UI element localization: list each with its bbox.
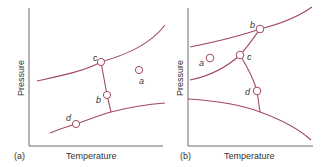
phase-diagram-figure: Pressure Temperature (a) c b a d Pressur… bbox=[0, 0, 331, 167]
panel-b-point-b-label: b bbox=[250, 20, 255, 30]
panel-a-label: (a) bbox=[14, 151, 25, 161]
panel-a-x-axis-label: Temperature bbox=[66, 151, 117, 161]
panel-a-y-axis-label: Pressure bbox=[16, 60, 26, 96]
panel-a-connecting-boundary bbox=[101, 62, 111, 112]
panel-a-point-a-label: a bbox=[139, 76, 144, 86]
panel-b-point-a-label: a bbox=[199, 58, 204, 68]
panel-b-point-d-label: d bbox=[245, 87, 251, 97]
panel-b-connecting-boundary bbox=[240, 55, 260, 112]
panel-a-upper-phase-boundary bbox=[37, 25, 165, 81]
panel-b-point-d bbox=[253, 87, 261, 95]
panel-b-x-axis-label: Temperature bbox=[224, 151, 275, 161]
panel-a: Pressure Temperature (a) c b a d bbox=[14, 8, 165, 161]
panel-b: Pressure Temperature (b) b c d a bbox=[175, 7, 313, 161]
panel-b-point-c-label: c bbox=[247, 52, 252, 62]
panel-a-point-d bbox=[72, 120, 79, 127]
panel-a-point-c bbox=[97, 58, 104, 65]
panel-a-point-b-label: b bbox=[96, 95, 101, 105]
panel-a-point-b bbox=[103, 91, 110, 98]
panel-b-y-axis-label: Pressure bbox=[175, 60, 185, 96]
panel-a-point-a bbox=[135, 66, 142, 73]
panel-b-point-a bbox=[206, 54, 214, 62]
panel-b-point-b bbox=[256, 25, 264, 33]
panel-a-point-c-label: c bbox=[93, 53, 98, 63]
panel-a-point-d-label: d bbox=[66, 113, 72, 123]
panel-b-label: (b) bbox=[180, 151, 191, 161]
panel-b-lower-phase-boundary bbox=[188, 99, 311, 140]
panel-b-point-c bbox=[236, 51, 244, 59]
